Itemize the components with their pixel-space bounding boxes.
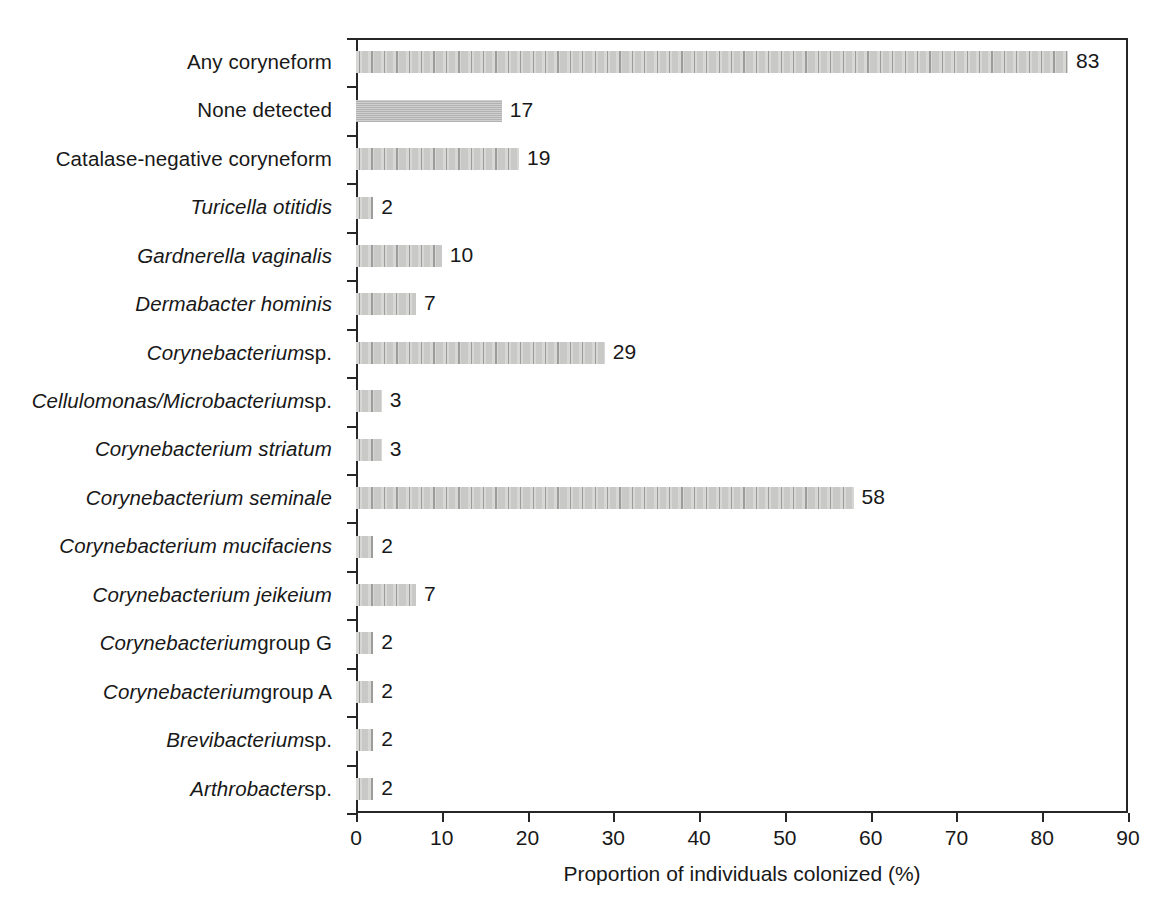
bar-row: Dermabacter hominis7 — [0, 280, 1171, 328]
category-label-part: Corynebacterium — [103, 681, 261, 704]
bar — [356, 729, 373, 751]
category-label: None detected — [0, 86, 344, 134]
category-label: Brevibacterium sp. — [0, 716, 344, 764]
bar — [356, 148, 519, 170]
category-label: Corynebacterium sp. — [0, 329, 344, 377]
category-label-part: Corynebacterium seminale — [86, 487, 332, 510]
y-axis-tick — [347, 232, 356, 234]
y-axis-tick — [347, 183, 356, 185]
x-axis-tick — [442, 813, 444, 822]
y-axis-tick — [347, 135, 356, 137]
y-axis-tick — [347, 474, 356, 476]
bar — [356, 197, 373, 219]
y-axis-tick — [347, 426, 356, 428]
x-axis-tick-label: 80 — [1012, 826, 1072, 850]
category-label: Arthrobacter sp. — [0, 765, 344, 813]
y-axis-tick — [347, 329, 356, 331]
x-axis-tick-label: 90 — [1098, 826, 1158, 850]
bar-row: None detected17 — [0, 86, 1171, 134]
category-label: Corynebacterium mucifaciens — [0, 522, 344, 570]
x-axis-tick-label: 0 — [326, 826, 386, 850]
y-axis-tick — [347, 765, 356, 767]
bar — [356, 536, 373, 558]
category-label: Any coryneform — [0, 38, 344, 86]
x-axis-tick — [613, 813, 615, 822]
bar — [356, 245, 442, 267]
category-label-part: sp. — [304, 729, 332, 752]
y-axis-tick — [347, 38, 356, 40]
category-label-part: Cellulomonas/Microbacterium — [32, 390, 305, 413]
bar — [356, 439, 382, 461]
category-label-part: Corynebacterium mucifaciens — [59, 535, 332, 558]
bar-row: Any coryneform83 — [0, 38, 1171, 86]
bar-value-label: 2 — [381, 776, 393, 800]
x-axis-tick — [956, 813, 958, 822]
category-label-part: group G — [257, 632, 332, 655]
y-axis-tick — [347, 280, 356, 282]
category-label-part: Brevibacterium — [166, 729, 304, 752]
bar-value-label: 2 — [381, 727, 393, 751]
y-axis-tick — [347, 377, 356, 379]
category-label-part: group A — [261, 681, 332, 704]
bar-value-label: 3 — [390, 388, 402, 412]
bar — [356, 390, 382, 412]
category-label: Corynebacterium seminale — [0, 474, 344, 522]
bar-row: Corynebacterium sp.29 — [0, 329, 1171, 377]
category-label: Corynebacterium group A — [0, 668, 344, 716]
category-label-part: sp. — [304, 342, 332, 365]
category-label: Turicella otitidis — [0, 183, 344, 231]
bar — [356, 487, 854, 509]
bar-value-label: 83 — [1076, 49, 1099, 73]
x-axis-tick-label: 60 — [841, 826, 901, 850]
bar — [356, 100, 502, 122]
x-axis-tick-label: 30 — [583, 826, 643, 850]
category-label-part: sp. — [304, 778, 332, 801]
bar — [356, 584, 416, 606]
bar-row: Corynebacterium group G2 — [0, 619, 1171, 667]
bar — [356, 681, 373, 703]
bar-row: Corynebacterium group A2 — [0, 668, 1171, 716]
x-axis-tick — [528, 813, 530, 822]
y-axis-tick — [347, 86, 356, 88]
bar — [356, 293, 416, 315]
bar — [356, 778, 373, 800]
y-axis-tick — [347, 813, 356, 815]
x-axis-tick — [1128, 813, 1130, 822]
bar-value-label: 2 — [381, 195, 393, 219]
bar-row: Cellulomonas/Microbacterium sp.3 — [0, 377, 1171, 425]
category-label-part: None detected — [197, 99, 332, 122]
x-axis-tick-label: 20 — [498, 826, 558, 850]
x-axis-tick — [785, 813, 787, 822]
bar-row: Corynebacterium mucifaciens2 — [0, 522, 1171, 570]
category-label: Cellulomonas/Microbacterium sp. — [0, 377, 344, 425]
y-axis-tick — [347, 571, 356, 573]
y-axis-tick — [347, 668, 356, 670]
x-axis-tick — [871, 813, 873, 822]
bar-chart-figure: Any coryneform83None detected17Catalase-… — [0, 0, 1171, 917]
category-label: Corynebacterium striatum — [0, 426, 344, 474]
x-axis-tick-label: 40 — [669, 826, 729, 850]
bar — [356, 51, 1068, 73]
bar-value-label: 2 — [381, 534, 393, 558]
bar-row: Corynebacterium seminale58 — [0, 474, 1171, 522]
bar-value-label: 17 — [510, 98, 533, 122]
bar-value-label: 3 — [390, 437, 402, 461]
category-label-part: Corynebacterium striatum — [95, 438, 332, 461]
category-label: Dermabacter hominis — [0, 280, 344, 328]
category-label: Gardnerella vaginalis — [0, 232, 344, 280]
category-label-part: Corynebacterium jeikeium — [93, 584, 332, 607]
bar-value-label: 29 — [613, 340, 636, 364]
category-label-part: Arthrobacter — [190, 778, 304, 801]
bar-row: Corynebacterium jeikeium7 — [0, 571, 1171, 619]
category-label-part: Any coryneform — [187, 51, 332, 74]
category-label-part: Corynebacterium — [100, 632, 258, 655]
bar — [356, 632, 373, 654]
y-axis-tick — [347, 619, 356, 621]
bar-value-label: 2 — [381, 630, 393, 654]
category-label: Catalase-negative coryneform — [0, 135, 344, 183]
category-label-part: Dermabacter hominis — [135, 293, 332, 316]
bar — [356, 342, 605, 364]
category-label-part: sp. — [304, 390, 332, 413]
category-label: Corynebacterium jeikeium — [0, 571, 344, 619]
bar-value-label: 7 — [424, 582, 436, 606]
